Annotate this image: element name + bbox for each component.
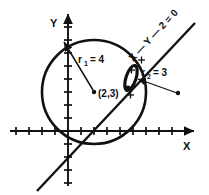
r1-label-group: r 1 = 4	[78, 54, 105, 67]
r1-value: = 4	[90, 54, 105, 65]
r2-label: r	[141, 67, 145, 78]
r2-value: = 3	[153, 67, 168, 78]
circle1-center-dot	[92, 90, 96, 94]
r1-label: r	[78, 54, 82, 65]
x-axis-label: X	[183, 140, 191, 152]
r2-subscript: 2	[147, 73, 151, 80]
y-axis-label: Y	[50, 17, 58, 29]
r2-pointer-dot	[176, 91, 180, 95]
r2-pointer-arrow	[138, 79, 177, 93]
circle1-center-label: (2,3)	[98, 88, 119, 99]
straight-line	[37, 23, 195, 191]
line-equation-label: X — Y — 2 = 0	[126, 7, 180, 64]
intersection-dot	[126, 86, 131, 91]
figure-canvas: X Y	[0, 0, 209, 195]
geometry-diagram-svg: X Y	[0, 0, 209, 195]
r1-subscript: 1	[84, 60, 88, 67]
